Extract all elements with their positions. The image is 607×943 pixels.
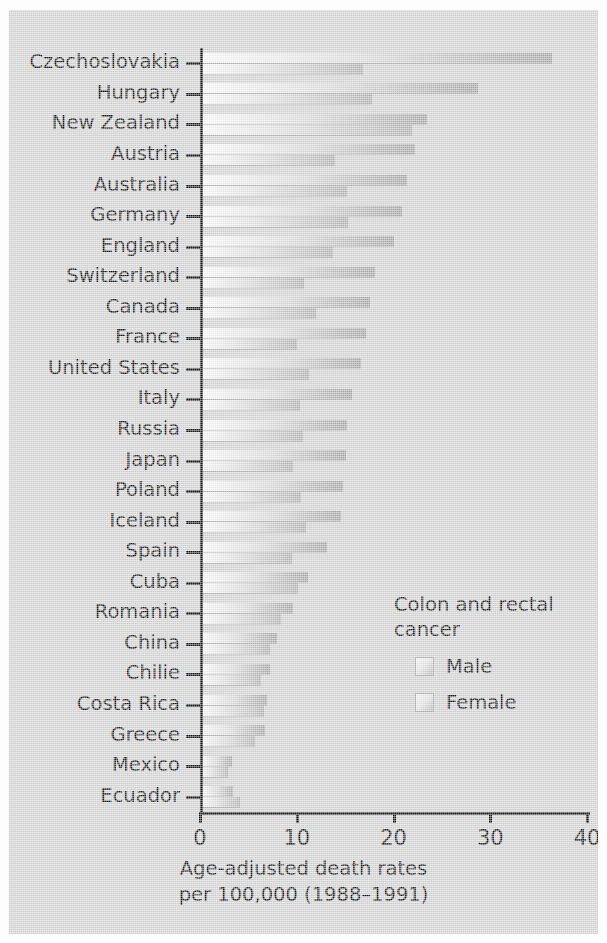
y-axis-tick [186, 62, 200, 65]
y-axis-tick [186, 429, 200, 432]
y-axis-label-poland: Poland [0, 478, 180, 501]
y-axis-tick [186, 154, 200, 157]
y-axis-tick [186, 735, 200, 738]
y-axis-label-france: France [0, 325, 180, 348]
bar-female [200, 247, 333, 257]
bar-female [200, 706, 264, 716]
y-axis-label-russia: Russia [0, 417, 180, 440]
y-axis-tick [186, 796, 200, 799]
x-axis-tick [296, 812, 299, 823]
bar-female [200, 614, 281, 624]
y-axis-label-ecuador: Ecuador [0, 784, 180, 807]
x-axis-tick-label: 0 [193, 826, 206, 850]
bar-male [200, 786, 233, 796]
legend-title-line-2: cancer [394, 617, 584, 642]
x-axis-tick-label: 10 [283, 826, 310, 850]
bar-male [200, 420, 347, 430]
bar-male [200, 511, 341, 521]
y-axis-tick [186, 368, 200, 371]
y-axis-tick [186, 490, 200, 493]
bar-female [200, 186, 347, 196]
y-axis-label-australia: Australia [0, 173, 180, 196]
x-axis-tick [199, 812, 202, 823]
bar-male [200, 83, 478, 93]
bar-male [200, 53, 552, 63]
y-axis-tick [186, 337, 200, 340]
bar-female [200, 94, 372, 104]
bar-male [200, 664, 270, 674]
bar-male [200, 144, 415, 154]
y-axis-label-iceland: Iceland [0, 509, 180, 532]
x-axis-tick-label: 20 [380, 826, 407, 850]
x-axis-tick [393, 812, 396, 823]
y-axis-label-costa-rica: Costa Rica [0, 692, 180, 715]
bar-male [200, 572, 308, 582]
y-axis-tick [186, 551, 200, 554]
y-axis-label-greece: Greece [0, 723, 180, 746]
y-axis-tick [186, 704, 200, 707]
y-axis-tick [186, 123, 200, 126]
page-margin-top [0, 0, 607, 10]
bar-male [200, 450, 346, 460]
y-axis-tick [186, 215, 200, 218]
y-axis-label-czechoslovakia: Czechoslovakia [0, 50, 180, 73]
y-axis-label-spain: Spain [0, 539, 180, 562]
bar-male [200, 206, 402, 216]
legend-label-male: Male [446, 655, 492, 678]
bar-female [200, 492, 301, 502]
bar-female [200, 369, 309, 379]
bar-female [200, 125, 412, 135]
bar-female [200, 675, 261, 685]
bar-female [200, 339, 297, 349]
legend-swatch-female-icon [416, 694, 433, 711]
legend-item-male: Male [416, 655, 584, 678]
y-axis-label-hungary: Hungary [0, 81, 180, 104]
y-axis-label-germany: Germany [0, 203, 180, 226]
y-axis-line [200, 48, 203, 812]
x-axis-tick-label: 30 [477, 826, 504, 850]
legend-label-female: Female [446, 691, 517, 714]
bar-male [200, 358, 361, 368]
y-axis-label-chilie: Chilie [0, 661, 180, 684]
legend-swatch-male-icon [416, 658, 433, 675]
bar-male [200, 297, 370, 307]
y-axis-label-england: England [0, 234, 180, 257]
legend-title: Colon and rectal cancer [394, 592, 584, 642]
bar-male [200, 328, 366, 338]
x-axis-tick-label: 40 [574, 826, 601, 850]
y-axis-label-united-states: United States [0, 356, 180, 379]
page-margin-right [598, 0, 607, 943]
page-margin-left [0, 0, 9, 943]
bar-male [200, 236, 394, 246]
bar-female [200, 308, 316, 318]
y-axis-label-switzerland: Switzerland [0, 264, 180, 287]
bar-male [200, 175, 407, 185]
y-axis-label-cuba: Cuba [0, 570, 180, 593]
y-axis-label-mexico: Mexico [0, 753, 180, 776]
bar-male [200, 389, 352, 399]
bar-female [200, 431, 303, 441]
bar-female [200, 644, 270, 654]
bar-female [200, 461, 293, 471]
y-axis-tick [186, 307, 200, 310]
x-axis-title-line-2: per 100,000 (1988–1991) [0, 882, 607, 908]
y-axis-label-austria: Austria [0, 142, 180, 165]
x-axis-title: Age-adjusted death rates per 100,000 (19… [0, 856, 607, 908]
y-axis-label-italy: Italy [0, 386, 180, 409]
bar-female [200, 400, 300, 410]
y-axis-tick [186, 185, 200, 188]
bar-male [200, 725, 265, 735]
bar-male [200, 267, 375, 277]
y-axis-tick [186, 460, 200, 463]
y-axis-tick [186, 276, 200, 279]
bar-female [200, 736, 255, 746]
y-axis-label-romania: Romania [0, 600, 180, 623]
chart-legend: Colon and rectal cancer Male Female [394, 592, 584, 714]
y-axis-tick [186, 521, 200, 524]
bar-male [200, 481, 343, 491]
bar-female [200, 522, 306, 532]
bar-female [200, 797, 240, 807]
bar-female [200, 553, 292, 563]
chart-figure: CzechoslovakiaHungaryNew ZealandAustriaA… [0, 0, 607, 943]
x-axis-title-line-1: Age-adjusted death rates [0, 856, 607, 882]
